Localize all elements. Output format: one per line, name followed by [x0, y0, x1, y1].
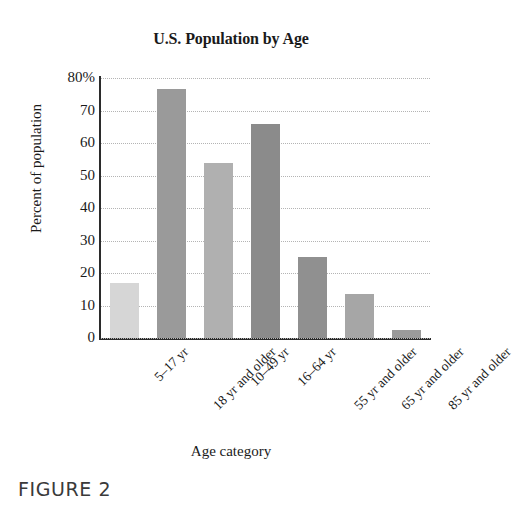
bar: [298, 257, 327, 338]
bar: [110, 283, 139, 338]
y-tick-label: 10: [35, 298, 95, 313]
x-axis-title: Age category: [0, 443, 462, 460]
gridline: [101, 78, 430, 79]
bar: [204, 163, 233, 339]
x-axis-tick-labels: 5–17 yr18 yr and older10–49 yr16–64 yr55…: [0, 338, 462, 458]
bar: [157, 89, 186, 338]
gridline: [101, 111, 430, 112]
x-tick-label: 5–17 yr: [151, 344, 192, 385]
bar: [392, 330, 421, 338]
plot-area: [101, 78, 430, 338]
bar: [345, 294, 374, 338]
figure-caption: FIGURE 2: [18, 478, 111, 500]
y-axis-title: Percent of population: [28, 69, 45, 269]
bar: [251, 124, 280, 339]
x-tick-label: 16–64 yr: [294, 344, 340, 390]
